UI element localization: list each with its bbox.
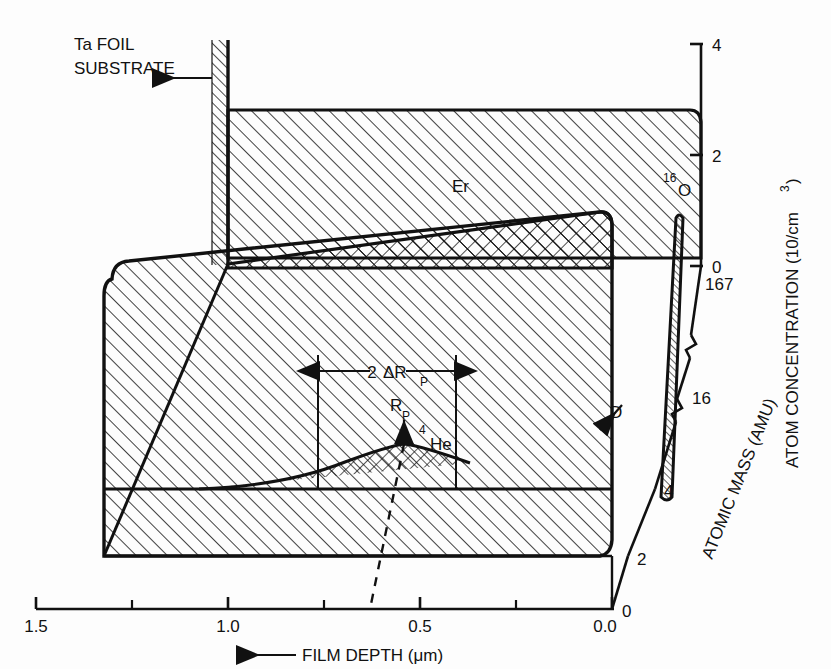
depth-profile-svg: Ta FOIL SUBSTRATE Er D 16 O 4 He 2 ΔR P … xyxy=(0,0,831,669)
depth-tick-label-2: 0.5 xyxy=(408,617,432,636)
conc-tick-label-4: 4 xyxy=(712,36,721,55)
ta-foil-label-line2: SUBSTRATE xyxy=(74,59,175,78)
delta-rp-symbol: ΔR xyxy=(383,363,407,382)
depth-axis-title: FILM DEPTH (μm) xyxy=(302,646,443,665)
depth-tick-label-1: 1.0 xyxy=(216,617,240,636)
he4-element: He xyxy=(430,435,452,454)
mass-axis-title: ATOMIC MASS (AMU) xyxy=(698,396,780,562)
mass-axis-seg-2-4 xyxy=(628,489,655,556)
mass-axis-group xyxy=(612,266,701,609)
d-slab-body xyxy=(104,212,612,556)
delta-rp-subscript: P xyxy=(420,375,428,389)
depth-tick-label-0: 1.5 xyxy=(24,617,48,636)
series-d-slab xyxy=(104,212,612,556)
depth-tick-label-3: 0.0 xyxy=(593,617,617,636)
ta-foil-label-line1: Ta FOIL xyxy=(74,35,134,54)
conc-tick-label-2: 2 xyxy=(712,147,721,166)
conc-axis-title-superscript: 3 xyxy=(778,185,792,192)
mass-axis-seg-16 xyxy=(677,358,690,399)
ta-foil-hatch xyxy=(212,40,228,265)
he4-superscript: 4 xyxy=(419,423,426,437)
rp-subscript: P xyxy=(402,409,410,423)
mass-axis-break-upper xyxy=(686,335,696,358)
o16-element: O xyxy=(678,181,691,200)
er-label: Er xyxy=(452,177,469,196)
mass-tick-label-167: 167 xyxy=(705,275,733,294)
conc-tick-label-0: 0 xyxy=(712,258,721,277)
depth-axis-group xyxy=(36,556,614,609)
delta-rp-pre: 2 xyxy=(367,363,376,382)
mass-tick-label-4: 4 xyxy=(664,482,673,501)
d-label: D xyxy=(610,403,622,422)
depth-axis-title-group: FILM DEPTH (μm) xyxy=(236,646,443,665)
rp-label: R xyxy=(390,396,402,415)
mass-tick-label-2: 2 xyxy=(637,550,646,569)
conc-axis-title-tail: ) xyxy=(783,178,802,184)
mass-axis-seg-167 xyxy=(691,266,701,335)
mass-tick-label-0: 0 xyxy=(622,602,631,621)
conc-axis-title: ATOM CONCENTRATION (10/cm xyxy=(783,212,802,468)
figure-canvas: Ta FOIL SUBSTRATE Er D 16 O 4 He 2 ΔR P … xyxy=(0,0,831,669)
conc-axis-title-group: ATOM CONCENTRATION (10/cm 3 ) xyxy=(778,178,802,468)
mass-tick-label-16: 16 xyxy=(692,389,711,408)
o16-superscript: 16 xyxy=(663,171,677,185)
